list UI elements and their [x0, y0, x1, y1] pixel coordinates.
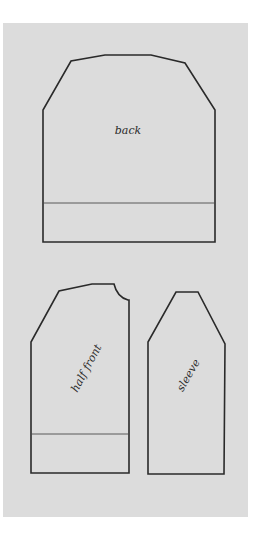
- diagram-panel: [3, 23, 248, 517]
- back-label: back: [115, 124, 142, 137]
- pattern-diagram: back half front sleeve: [0, 0, 257, 537]
